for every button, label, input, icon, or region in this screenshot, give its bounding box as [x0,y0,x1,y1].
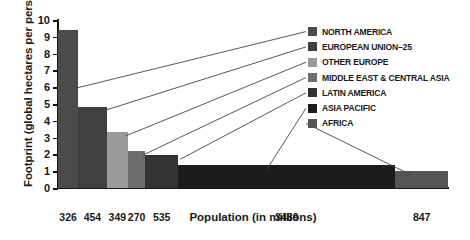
y-axis-title: Footprint (global hectares per person) [22,0,34,187]
legend-swatch-icon [308,27,317,36]
x-axis-title: Population (in millions) [58,211,448,223]
y-tick-label: 8 [44,48,50,60]
legend-swatch-icon [308,58,317,67]
legend-item[interactable]: NORTH AMERICA [308,24,450,39]
legend-item[interactable]: AFRICA [308,116,450,131]
y-tick-mark [53,188,58,190]
y-tick-label: 10 [38,14,50,26]
footprint-vs-population-chart: Footprint (global hectares per person) 1… [0,0,470,240]
bar [145,155,178,188]
legend-swatch-icon [308,42,317,51]
legend-swatch-icon [308,119,317,128]
y-tick-mark [53,20,58,22]
y-tick-label: 5 [44,98,50,110]
bar [107,132,129,188]
bar [78,107,106,188]
bar [58,30,78,188]
legend-label: EUROPEAN UNION–25 [322,42,412,52]
legend-label: LATIN AMERICA [322,88,386,98]
y-tick-label: 9 [44,31,50,43]
legend-label: MIDDLE EAST & CENTRAL ASIA [322,73,450,83]
y-tick-label: 1 [44,165,50,177]
bar [178,165,395,188]
legend-label: NORTH AMERICA [322,27,392,37]
y-tick-label: 7 [44,64,50,76]
legend-label: AFRICA [322,118,353,128]
y-tick-label: 2 [44,148,50,160]
legend-item[interactable]: OTHER EUROPE [308,55,450,70]
legend-swatch-icon [308,73,317,82]
legend-swatch-icon [308,104,317,113]
legend-label: ASIA PACIFIC [322,103,376,113]
legend-swatch-icon [308,88,317,97]
legend-item[interactable]: MIDDLE EAST & CENTRAL ASIA [308,70,450,85]
bar [395,171,448,188]
bar [128,151,145,188]
legend-item[interactable]: EUROPEAN UNION–25 [308,39,450,54]
legend-label: OTHER EUROPE [322,57,388,67]
y-tick-label: 6 [44,81,50,93]
y-tick-label: 0 [44,182,50,194]
legend-item[interactable]: LATIN AMERICA [308,85,450,100]
y-tick-label: 3 [44,132,50,144]
legend-item[interactable]: ASIA PACIFIC [308,100,450,115]
y-tick-label: 4 [44,115,50,127]
legend: NORTH AMERICAEUROPEAN UNION–25OTHER EURO… [308,24,450,131]
